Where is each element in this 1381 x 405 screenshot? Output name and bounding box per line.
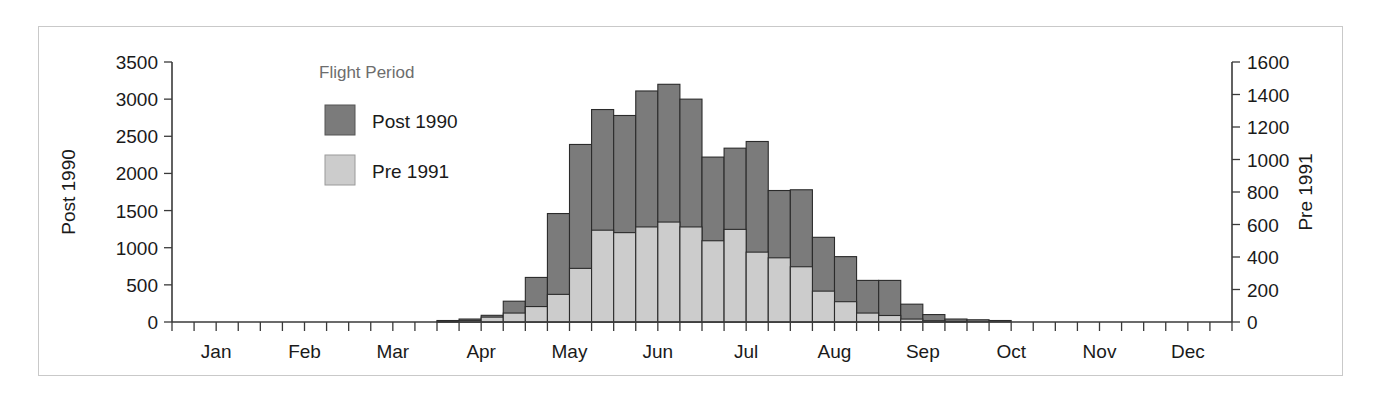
right-axis-tick-label: 400 xyxy=(1247,247,1279,268)
month-label: Sep xyxy=(906,341,940,362)
chart-canvas: 0500100015002000250030003500020040060080… xyxy=(0,0,1381,405)
chart-figure: 0500100015002000250030003500020040060080… xyxy=(0,0,1381,405)
right-axis-tick-label: 200 xyxy=(1247,280,1279,301)
bar-pre-1991 xyxy=(835,302,857,322)
bar-pre-1991 xyxy=(768,258,790,322)
left-axis-tick-label: 3500 xyxy=(116,52,158,73)
bar-pre-1991 xyxy=(879,316,901,323)
bar-pre-1991 xyxy=(614,233,636,322)
month-label: Oct xyxy=(996,341,1026,362)
bar-pre-1991 xyxy=(790,267,812,322)
left-axis-tick-label: 1000 xyxy=(116,238,158,259)
bar-pre-1991 xyxy=(658,222,680,322)
right-axis-title: Pre 1991 xyxy=(1295,153,1316,230)
legend-swatch-post-1990 xyxy=(325,105,355,135)
bar-pre-1991 xyxy=(636,227,658,322)
right-axis-tick-label: 1000 xyxy=(1247,150,1289,171)
legend-label-post-1990: Post 1990 xyxy=(372,111,458,132)
right-axis-tick-label: 0 xyxy=(1247,312,1258,333)
legend-title: Flight Period xyxy=(319,63,414,82)
left-axis-tick-label: 2500 xyxy=(116,126,158,147)
bar-pre-1991 xyxy=(525,307,547,322)
bar-pre-1991 xyxy=(812,291,834,322)
right-axis-tick-label: 800 xyxy=(1247,182,1279,203)
right-axis-tick-label: 1400 xyxy=(1247,85,1289,106)
bar-pre-1991 xyxy=(680,227,702,322)
legend: Flight Period Post 1990 Pre 1991 xyxy=(319,63,458,185)
month-label: Mar xyxy=(376,341,409,362)
left-axis-tick-label: 500 xyxy=(126,275,158,296)
month-label: Aug xyxy=(818,341,852,362)
right-axis-tick-label: 1600 xyxy=(1247,52,1289,73)
month-label: May xyxy=(552,341,588,362)
month-label: Jun xyxy=(643,341,674,362)
bar-pre-1991 xyxy=(570,268,592,322)
left-axis-tick-label: 3000 xyxy=(116,89,158,110)
month-label: Nov xyxy=(1083,341,1117,362)
bar-pre-1991 xyxy=(702,241,724,322)
bar-pre-1991 xyxy=(592,230,614,322)
left-axis-tick-label: 1500 xyxy=(116,201,158,222)
left-axis-title: Post 1990 xyxy=(58,149,79,235)
month-label: Apr xyxy=(466,341,496,362)
bar-pre-1991 xyxy=(724,229,746,322)
bar-pre-1991 xyxy=(746,252,768,322)
right-axis-tick-label: 600 xyxy=(1247,215,1279,236)
month-label: Jul xyxy=(734,341,758,362)
month-label: Dec xyxy=(1171,341,1205,362)
bar-pre-1991 xyxy=(547,294,569,322)
left-axis-tick-label: 2000 xyxy=(116,163,158,184)
bar-pre-1991 xyxy=(503,313,525,322)
legend-label-pre-1991: Pre 1991 xyxy=(372,161,449,182)
legend-swatch-pre-1991 xyxy=(325,155,355,185)
left-axis-tick-label: 0 xyxy=(147,312,158,333)
right-axis-tick-label: 1200 xyxy=(1247,117,1289,138)
bar-pre-1991 xyxy=(857,313,879,322)
month-label: Jan xyxy=(201,341,232,362)
month-label: Feb xyxy=(288,341,321,362)
